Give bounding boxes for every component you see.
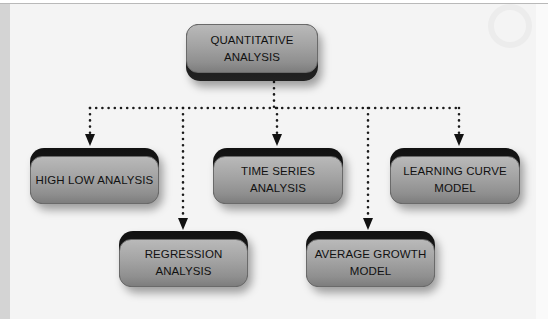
node-label-line: HIGH LOW ANALYSIS [36, 172, 154, 189]
arrowhead-icon [178, 218, 188, 230]
node-face: TIME SERIES ANALYSIS [213, 156, 343, 204]
node-label-line: LEARNING CURVE [403, 163, 506, 180]
node-face: LEARNING CURVE MODEL [390, 156, 520, 204]
node-regression-analysis: REGRESSION ANALYSIS [119, 231, 248, 287]
arrowhead-icon [85, 134, 95, 146]
node-face: REGRESSION ANALYSIS [119, 239, 248, 287]
node-label-line: MODEL [403, 180, 506, 197]
node-high-low-analysis: HIGH LOW ANALYSIS [30, 148, 159, 204]
node-label-line: AVERAGE GROWTH [315, 246, 427, 263]
node-face: AVERAGE GROWTH MODEL [306, 239, 435, 287]
node-learning-curve-model: LEARNING CURVE MODEL [390, 148, 520, 204]
node-average-growth-model: AVERAGE GROWTH MODEL [306, 231, 435, 287]
node-label-line: MODEL [315, 263, 427, 280]
node-face: QUANTITATIVE ANALYSIS [186, 24, 318, 73]
arrowhead-icon [454, 134, 464, 146]
node-time-series-analysis: TIME SERIES ANALYSIS [213, 148, 343, 204]
node-label-line: REGRESSION [145, 246, 223, 263]
node-label-line: QUANTITATIVE [210, 32, 293, 49]
node-face: HIGH LOW ANALYSIS [30, 156, 159, 204]
node-label-line: TIME SERIES [241, 163, 315, 180]
arrowhead-icon [272, 134, 282, 146]
node-label-line: ANALYSIS [241, 180, 315, 197]
arrowhead-icon [363, 218, 373, 230]
node-label-line: ANALYSIS [210, 49, 293, 66]
node-label-line: ANALYSIS [145, 263, 223, 280]
node-quantitative-analysis: QUANTITATIVE ANALYSIS [186, 24, 318, 81]
